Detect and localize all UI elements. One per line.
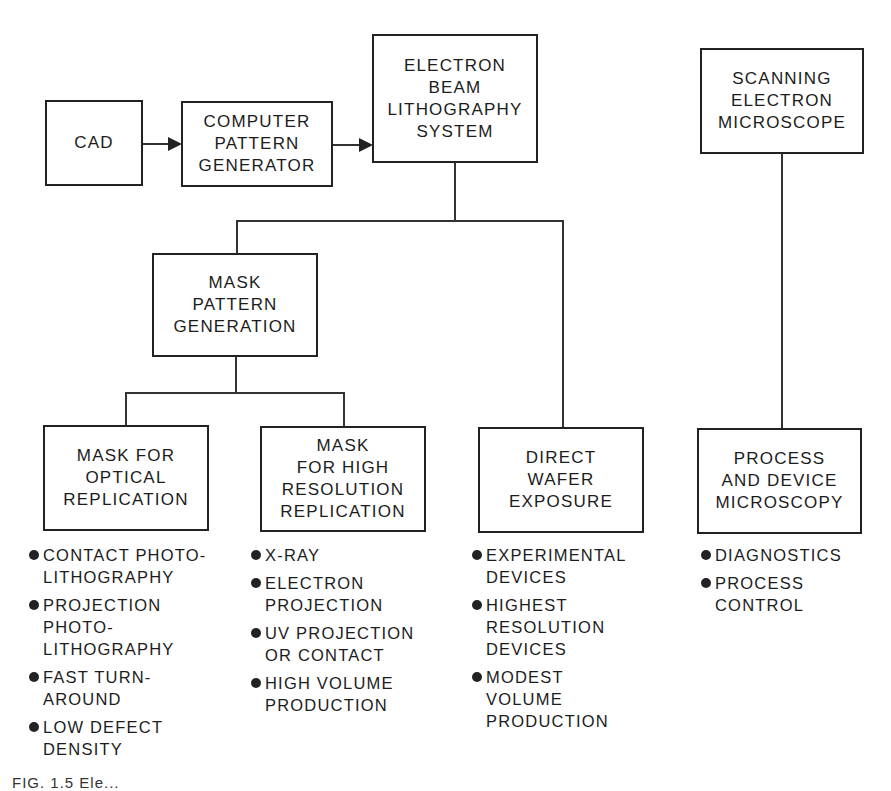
bullet-dot-icon — [29, 550, 39, 560]
node-cad: CAD — [45, 100, 143, 186]
connector-cad-to-pg — [143, 143, 169, 145]
bullet-dot-icon — [251, 628, 261, 638]
node-label: SCANNING ELECTRON MICROSCOPE — [718, 68, 846, 134]
bullet-dot-icon — [29, 600, 39, 610]
bullet-item: LOW DEFECT DENSITY — [29, 716, 229, 760]
node-label: MASK FOR OPTICAL REPLICATION — [63, 445, 188, 511]
bullet-item: PROCESS CONTROL — [701, 572, 891, 616]
bullet-dot-icon — [701, 578, 711, 588]
bullet-item: EXPERIMENTAL DEVICES — [472, 544, 672, 588]
bullet-dot-icon — [701, 550, 711, 560]
bullet-dot-icon — [472, 672, 482, 682]
node-label: ELECTRON BEAM LITHOGRAPHY SYSTEM — [387, 55, 522, 143]
bullet-dot-icon — [251, 550, 261, 560]
bullet-dot-icon — [251, 678, 261, 688]
node-computer-pattern-generator: COMPUTER PATTERN GENERATOR — [181, 101, 333, 187]
bullet-item: DIAGNOSTICS — [701, 544, 891, 566]
arrow-head-icon — [359, 138, 373, 152]
node-electron-beam-lithography-system: ELECTRON BEAM LITHOGRAPHY SYSTEM — [372, 34, 538, 163]
bullet-dot-icon — [29, 722, 39, 732]
bullet-item: HIGHEST RESOLUTION DEVICES — [472, 594, 672, 660]
bullet-item: MODEST VOLUME PRODUCTION — [472, 666, 672, 732]
bullet-dot-icon — [29, 672, 39, 682]
node-direct-wafer-exposure: DIRECT WAFER EXPOSURE — [478, 427, 644, 533]
node-label: MASK PATTERN GENERATION — [173, 272, 296, 338]
bullet-item: PROJECTION PHOTO- LITHOGRAPHY — [29, 594, 229, 660]
connector-to-direct-wafer — [562, 220, 564, 427]
bullets-process-microscopy: DIAGNOSTICS PROCESS CONTROL — [701, 544, 891, 622]
bullet-dot-icon — [472, 550, 482, 560]
bullet-item: X-RAY — [251, 544, 451, 566]
bullet-item: UV PROJECTION OR CONTACT — [251, 622, 451, 666]
node-label: CAD — [74, 132, 114, 154]
connector-pg-to-ebl — [333, 144, 360, 146]
bullets-mask-high-res: X-RAY ELECTRON PROJECTION UV PROJECTION … — [251, 544, 451, 722]
connector-mpg-branch — [125, 392, 344, 394]
node-label: MASK FOR HIGH RESOLUTION REPLICATION — [280, 435, 405, 523]
node-label: PROCESS AND DEVICE MICROSCOPY — [715, 448, 843, 514]
connector-ebl-branch — [236, 220, 563, 222]
bullet-dot-icon — [251, 578, 261, 588]
figure-caption: FIG. 1.5 Ele... — [12, 774, 120, 791]
connector-to-mask-high-res — [343, 392, 345, 426]
node-process-device-microscopy: PROCESS AND DEVICE MICROSCOPY — [697, 428, 862, 534]
connector-to-mpg — [236, 220, 238, 253]
bullet-item: FAST TURN- AROUND — [29, 666, 229, 710]
arrow-head-icon — [168, 137, 182, 151]
connector-ebl-down — [454, 163, 456, 221]
bullet-item: ELECTRON PROJECTION — [251, 572, 451, 616]
bullet-item: CONTACT PHOTO- LITHOGRAPHY — [29, 544, 229, 588]
connector-sem-to-process — [781, 154, 783, 428]
connector-mpg-down — [235, 357, 237, 393]
bullets-direct-wafer: EXPERIMENTAL DEVICES HIGHEST RESOLUTION … — [472, 544, 672, 738]
bullet-dot-icon — [472, 600, 482, 610]
connector-to-mask-optical — [125, 392, 127, 425]
node-label: COMPUTER PATTERN GENERATOR — [199, 111, 316, 177]
node-mask-optical-replication: MASK FOR OPTICAL REPLICATION — [43, 425, 209, 531]
node-mask-high-resolution-replication: MASK FOR HIGH RESOLUTION REPLICATION — [260, 426, 426, 532]
bullet-item: HIGH VOLUME PRODUCTION — [251, 672, 451, 716]
node-mask-pattern-generation: MASK PATTERN GENERATION — [152, 253, 318, 357]
bullets-mask-optical: CONTACT PHOTO- LITHOGRAPHY PROJECTION PH… — [29, 544, 229, 766]
node-label: DIRECT WAFER EXPOSURE — [509, 447, 613, 513]
node-scanning-electron-microscope: SCANNING ELECTRON MICROSCOPE — [700, 48, 864, 154]
